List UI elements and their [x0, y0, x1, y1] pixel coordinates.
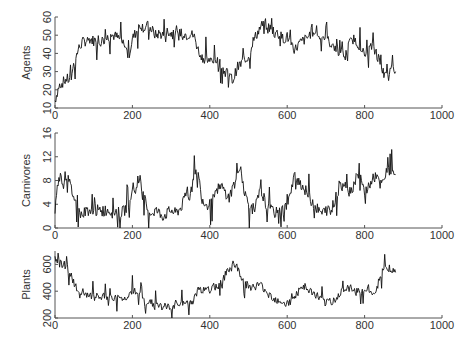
x-tick-label: 800 — [355, 319, 373, 331]
y-tick-label: 4 — [41, 201, 53, 207]
x-tick-label: 1000 — [430, 109, 454, 121]
y-tick-label: 12 — [41, 151, 53, 163]
x-tick-label: 0 — [52, 229, 58, 241]
x-tick-label: 400 — [201, 229, 219, 241]
series-line-carnivores — [55, 150, 396, 229]
x-tick-label: 600 — [278, 229, 296, 241]
y-tick-label: 60 — [41, 11, 53, 23]
x-tick-label: 0 — [52, 109, 58, 121]
population-time-series-chart: 10203040506002004006008001000Agents04812… — [0, 0, 476, 349]
y-tick-label: 400 — [41, 282, 53, 300]
x-tick-label: 400 — [201, 109, 219, 121]
y-tick-label: 20 — [41, 84, 53, 96]
series-line-agents — [55, 18, 396, 102]
y-tick-label: 30 — [41, 65, 53, 77]
x-tick-label: 1000 — [430, 319, 454, 331]
x-tick-label: 1000 — [430, 229, 454, 241]
series-line-plants — [55, 253, 396, 318]
x-tick-label: 800 — [355, 109, 373, 121]
panel-plants: 20040060002004006008001000Plants — [20, 251, 454, 331]
panel-agents: 10203040506002004006008001000Agents — [20, 11, 454, 121]
y-tick-label: 40 — [41, 47, 53, 59]
y-axis-title: Agents — [20, 45, 32, 80]
x-tick-label: 400 — [201, 319, 219, 331]
x-tick-label: 600 — [278, 109, 296, 121]
y-tick-label: 600 — [41, 255, 53, 273]
y-axis-title: Carnivores — [20, 153, 32, 207]
panel-carnivores: 048121602004006008001000Carnivores — [20, 127, 454, 241]
x-tick-label: 800 — [355, 229, 373, 241]
y-axis-title: Plants — [20, 269, 32, 300]
x-tick-label: 200 — [123, 229, 141, 241]
y-tick-label: 50 — [41, 29, 53, 41]
x-tick-label: 200 — [123, 109, 141, 121]
y-tick-label: 8 — [41, 177, 53, 183]
x-tick-label: 200 — [123, 319, 141, 331]
x-tick-label: 600 — [278, 319, 296, 331]
y-tick-label: 16 — [41, 127, 53, 139]
x-tick-label: 0 — [52, 319, 58, 331]
